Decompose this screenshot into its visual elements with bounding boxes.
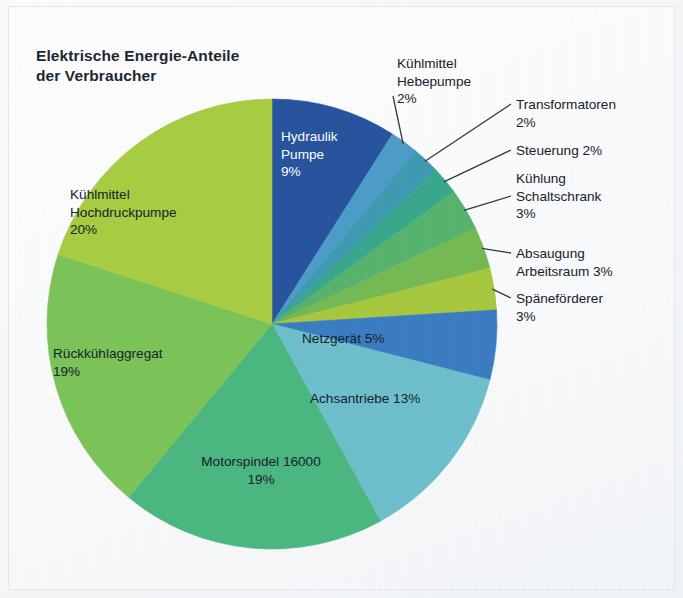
- slice-label-hydraulik-pumpe: Hydraulik Pumpe 9%: [281, 128, 338, 181]
- slice-label-kuehlmittel-hebepumpe: Kühlmittel Hebepumpe 2%: [397, 55, 471, 108]
- slice-label-steuerung: Steuerung 2%: [516, 142, 602, 160]
- leader-line: [425, 104, 511, 161]
- slice-label-motorspindel: Motorspindel 16000 19%: [136, 453, 386, 488]
- slice-label-kuehlung-schaltschrank: Kühlung Schaltschrank 3%: [516, 170, 601, 223]
- slice-label-rueckkuehlaggregat: Rückkühlaggregat 19%: [53, 345, 163, 380]
- leader-line: [482, 248, 511, 253]
- slice-label-absaugung-arbeitsraum: Absaugung Arbeitsraum 3%: [516, 245, 613, 280]
- slice-label-spaenefoerderer: Späneförderer 3%: [516, 290, 603, 325]
- slice-label-transformatoren: Transformatoren 2%: [516, 96, 616, 131]
- chart-title: Elektrische Energie-Anteile der Verbrauc…: [36, 46, 239, 86]
- leader-line: [464, 196, 511, 210]
- leader-line: [444, 150, 511, 182]
- slice-label-achsantriebe: Achsantriebe 13%: [310, 390, 420, 408]
- slice-label-netzgeraet: Netzgerät 5%: [302, 330, 384, 348]
- pie-chart-figure: Elektrische Energie-Anteile der Verbrauc…: [0, 0, 683, 598]
- slice-label-kuehlmittel-hochdruckpumpe: Kühlmittel Hochdruckpumpe 20%: [70, 186, 177, 239]
